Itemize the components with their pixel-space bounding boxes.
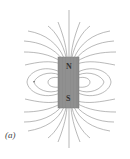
figure-caption: (a) — [5, 130, 16, 140]
magnetic-field-diagram: N S — [0, 0, 130, 159]
north-pole-label: N — [66, 62, 72, 71]
south-pole-label: S — [66, 94, 71, 103]
